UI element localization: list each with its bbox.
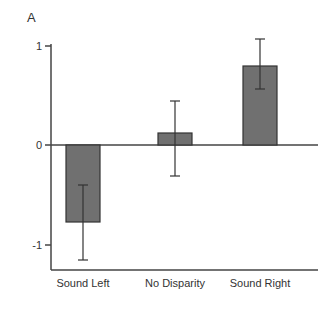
xtick-label: No Disparity (145, 277, 205, 289)
ytick-label: 0 (28, 139, 42, 151)
chart-plot-area (0, 0, 334, 315)
xtick-label: Sound Left (56, 277, 109, 289)
ytick-label: -1 (28, 239, 42, 251)
ytick-label: 1 (28, 40, 42, 52)
xtick-label: Sound Right (230, 277, 291, 289)
